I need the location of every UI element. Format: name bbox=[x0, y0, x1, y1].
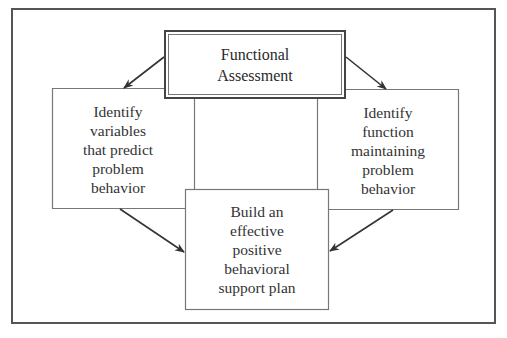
arrow-left-to-bottom bbox=[120, 209, 184, 252]
arrow-top-to-left bbox=[124, 57, 164, 88]
build-plan-node: Build an effective positive behavioral s… bbox=[186, 192, 328, 306]
functional-assessment-node: Functional Assessment bbox=[164, 30, 346, 99]
identify-function-label: Identify function maintaining problem be… bbox=[351, 103, 425, 198]
functional-assessment-inner-border: Functional Assessment bbox=[168, 34, 342, 95]
middle-column-lines bbox=[195, 99, 318, 189]
arrow-right-to-bottom bbox=[330, 210, 393, 251]
identify-function-node: Identify function maintaining problem be… bbox=[320, 97, 456, 203]
identify-variables-node: Identify variables that predict problem … bbox=[52, 96, 184, 202]
build-plan-label: Build an effective positive behavioral s… bbox=[218, 202, 295, 297]
arrow-top-to-right bbox=[346, 57, 386, 89]
functional-assessment-label: Functional Assessment bbox=[217, 44, 293, 86]
identify-variables-label: Identify variables that predict problem … bbox=[83, 102, 153, 197]
